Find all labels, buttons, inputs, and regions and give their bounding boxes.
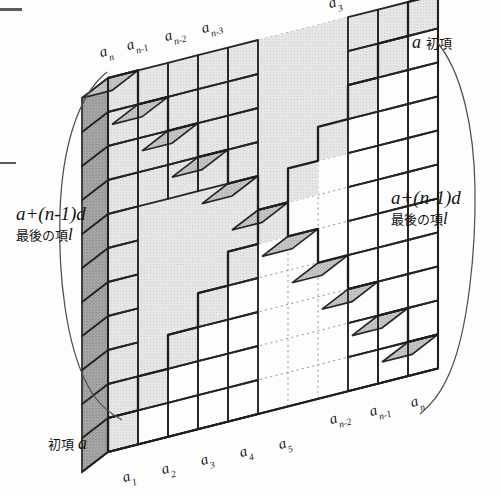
left-depth-faces	[82, 78, 108, 472]
last-term-left-jp: 最後の項l	[16, 226, 86, 243]
scan-artifact-middle	[0, 162, 16, 164]
last-term-right-jp-symbol: l	[443, 209, 448, 228]
first-term-bottom-jp: 初項	[48, 437, 74, 452]
first-term-symbol-top: a	[412, 32, 421, 52]
last-term-left-label: a+(n-1)d 最後の項l	[16, 204, 86, 243]
last-term-right-label: a+(n-1)d 最後の項l	[391, 188, 461, 227]
first-term-top-right-label: a初項	[412, 33, 452, 51]
arithmetic-series-figure: an an-1 an-2 an-3 a3 a初項 a+(n-1)d 最後の項l …	[0, 0, 502, 496]
last-term-right-formula: a+(n-1)d	[391, 188, 461, 207]
figure-canvas	[0, 0, 502, 496]
first-term-bottom-left-label: 初項a	[48, 434, 87, 452]
last-term-left-formula: a+(n-1)d	[16, 204, 86, 223]
last-term-left-jp-symbol: l	[68, 225, 73, 244]
scan-artifact-top	[0, 8, 22, 11]
first-term-jp-top: 初項	[421, 36, 452, 51]
first-term-bottom-symbol: a	[74, 433, 87, 453]
last-term-left-jp-text: 最後の項	[16, 228, 68, 243]
last-term-right-jp-text: 最後の項	[391, 212, 443, 227]
last-term-right-jp: 最後の項l	[391, 210, 461, 227]
